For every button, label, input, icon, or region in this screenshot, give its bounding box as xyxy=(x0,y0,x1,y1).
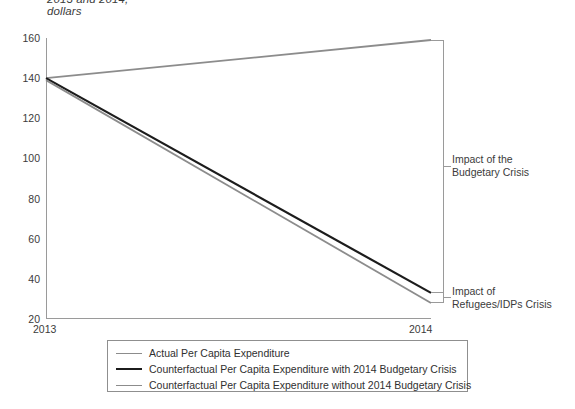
legend-swatch-0 xyxy=(116,353,142,354)
x-axis-label-2013: 2013 xyxy=(33,323,56,335)
annotation-refugees-crisis: Impact of Refugees/IDPs Crisis xyxy=(452,285,552,310)
chart-legend: Actual Per Capita ExpenditureCounterfact… xyxy=(107,340,468,392)
annotation-budgetary-crisis: Impact of the Budgetary Crisis xyxy=(452,153,529,178)
y-tick-120: 120 xyxy=(22,112,40,124)
legend-label-1: Counterfactual Per Capita Expenditure wi… xyxy=(149,363,457,375)
y-tick-40: 40 xyxy=(28,273,40,285)
legend-swatch-2 xyxy=(116,385,142,386)
y-tick-80: 80 xyxy=(28,193,40,205)
annotation-refugees-line2: Refugees/IDPs Crisis xyxy=(452,298,552,311)
annotation-budgetary-line2: Budgetary Crisis xyxy=(452,166,529,179)
chart-title-units: dollars xyxy=(47,5,82,17)
annotation-refugees-line1: Impact of xyxy=(452,285,552,298)
plot-area xyxy=(46,38,431,319)
annotation-budgetary-line1: Impact of the xyxy=(452,153,529,166)
x-axis-label-2014: 2014 xyxy=(409,323,432,335)
y-axis-tick-labels: 20406080100120140160 xyxy=(0,38,40,319)
series-line-0 xyxy=(46,40,431,78)
legend-item-2: Counterfactual Per Capita Expenditure wi… xyxy=(108,377,467,393)
y-tick-60: 60 xyxy=(28,233,40,245)
legend-label-2: Counterfactual Per Capita Expenditure wi… xyxy=(149,379,471,391)
legend-item-1: Counterfactual Per Capita Expenditure wi… xyxy=(108,361,467,377)
y-tick-100: 100 xyxy=(22,152,40,164)
y-tick-160: 160 xyxy=(22,32,40,44)
legend-swatch-1 xyxy=(116,368,142,370)
chart-figure: 2013 and 2014, dollars 20406080100120140… xyxy=(0,0,575,409)
y-tick-140: 140 xyxy=(22,72,40,84)
series-line-1 xyxy=(46,78,431,293)
legend-item-0: Actual Per Capita Expenditure xyxy=(108,345,467,361)
series-lines xyxy=(46,38,431,319)
series-line-2 xyxy=(46,80,431,303)
legend-label-0: Actual Per Capita Expenditure xyxy=(149,347,290,359)
